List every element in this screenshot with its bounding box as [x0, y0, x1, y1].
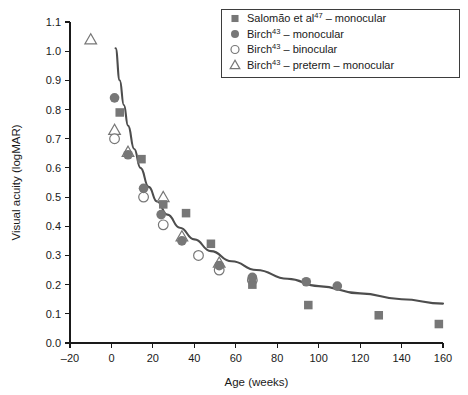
scatter-plot: 0.00.10.20.30.40.50.60.70.80.91.01.1–200…: [0, 0, 468, 395]
marker-filled-square: [159, 200, 168, 209]
fit-curve: [116, 48, 443, 303]
x-tick-label: 160: [434, 352, 452, 364]
x-tick-label: 20: [147, 352, 159, 364]
marker-filled-square: [231, 15, 238, 22]
x-tick-label: 100: [309, 352, 327, 364]
marker-filled-circle: [110, 93, 120, 103]
marker-filled-circle: [156, 210, 166, 220]
x-tick-label: 120: [351, 352, 369, 364]
x-tick-label: 60: [230, 352, 242, 364]
marker-open-circle: [158, 220, 168, 230]
y-tick-label: 0.7: [46, 133, 61, 145]
series-group: [110, 93, 342, 291]
marker-filled-square: [137, 155, 146, 164]
chart-figure: 0.00.10.20.30.40.50.60.70.80.91.01.1–200…: [0, 0, 468, 395]
marker-filled-square: [374, 311, 383, 320]
marker-open-circle: [194, 251, 204, 261]
legend-item: Birch43 – monocular: [231, 27, 344, 40]
marker-filled-circle: [231, 30, 239, 38]
y-tick-label: 0.5: [46, 191, 61, 203]
legend-item: Birch43 – preterm – monocular: [230, 58, 394, 71]
x-tick-label: 0: [108, 352, 114, 364]
y-tick-label: 1.1: [46, 16, 61, 28]
marker-filled-square: [115, 108, 124, 117]
x-tick-label: 80: [271, 352, 283, 364]
axes: [65, 22, 443, 348]
data-points: [85, 34, 443, 329]
marker-open-circle: [110, 134, 120, 144]
y-tick-label: 0.9: [46, 74, 61, 86]
y-tick-label: 0.4: [46, 220, 61, 232]
y-tick-label: 0.1: [46, 308, 61, 320]
y-tick-label: 0.0: [46, 337, 61, 349]
marker-open-circle: [139, 192, 149, 202]
legend: Salomão et al47 – monocularBirch43 – mon…: [221, 9, 459, 77]
marker-filled-circle: [177, 236, 187, 246]
marker-filled-square: [207, 240, 216, 249]
y-tick-label: 0.8: [46, 104, 61, 116]
marker-open-triangle: [109, 124, 121, 134]
marker-open-circle: [231, 46, 239, 54]
marker-open-triangle: [85, 34, 97, 44]
marker-filled-circle: [301, 277, 311, 287]
marker-filled-square: [182, 209, 191, 218]
y-tick-label: 0.3: [46, 249, 61, 261]
series-group: [115, 108, 443, 328]
legend-label: Birch43 – preterm – monocular: [247, 58, 394, 71]
legend-item: Salomão et al47 – monocular: [231, 11, 386, 24]
x-tick-label: –20: [61, 352, 79, 364]
x-tick-label: 40: [188, 352, 200, 364]
marker-open-triangle: [230, 60, 240, 68]
y-tick-label: 0.6: [46, 162, 61, 174]
marker-open-triangle: [157, 191, 169, 201]
legend-item: Birch43 – binocular: [231, 42, 338, 55]
marker-filled-circle: [214, 261, 224, 271]
marker-filled-circle: [248, 273, 258, 283]
x-axis-title: Age (weeks): [225, 376, 289, 388]
axis-labels: 0.00.10.20.30.40.50.60.70.80.91.01.1–200…: [10, 16, 452, 388]
x-tick-label: 140: [392, 352, 410, 364]
marker-filled-circle: [139, 184, 149, 194]
series-group: [85, 34, 225, 267]
y-tick-label: 0.2: [46, 279, 61, 291]
legend-label: Birch43 – binocular: [247, 42, 338, 55]
marker-filled-circle: [332, 281, 342, 291]
marker-filled-circle: [123, 150, 133, 160]
legend-label: Birch43 – monocular: [247, 27, 344, 40]
y-axis-title: Visual acuity (logMAR): [10, 124, 22, 240]
legend-label: Salomão et al47 – monocular: [247, 11, 387, 24]
marker-filled-square: [304, 301, 313, 310]
y-tick-label: 1.0: [46, 45, 61, 57]
marker-filled-square: [435, 320, 444, 329]
